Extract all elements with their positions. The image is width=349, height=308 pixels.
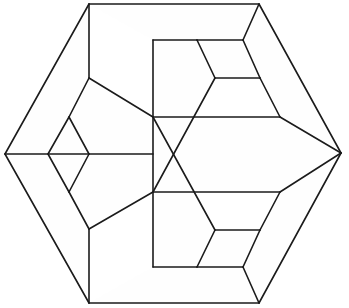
rhombic-hexagon-figure bbox=[0, 0, 349, 308]
